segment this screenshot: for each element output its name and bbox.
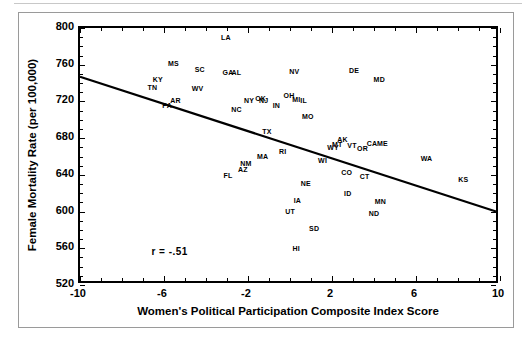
x-tick-minor [122,278,123,281]
x-axis-tick-labels: -10-6-22610 [78,287,498,303]
data-point-label: NJ [259,96,268,103]
regression-line [80,28,496,281]
y-tick-minor [80,166,83,167]
y-tick-minor [80,56,83,57]
y-tick-minor [80,83,83,84]
data-point-label: ME [377,139,388,146]
data-point-label: HI [293,245,300,252]
y-tick-major-right [491,65,496,66]
data-point-label: IL [300,96,307,103]
x-tick-minor-top [101,28,102,31]
x-tick-major [332,276,333,281]
y-tick-major [80,175,85,176]
data-point-label: ND [369,210,380,217]
y-tick-minor-right [493,166,496,167]
plot-inner: LAMSSCGAALNVDEKYTNMDWVARPANYOKNJOHMIILIN… [80,28,496,281]
y-tick-minor-right [493,74,496,75]
data-point-label: KS [458,176,468,183]
data-point-label: MS [168,59,179,66]
y-tick-minor [80,267,83,268]
x-tick-minor [290,278,291,281]
x-tick-label: -6 [157,287,167,299]
data-point-label: CA [367,139,378,146]
x-tick-label: 2 [327,287,333,299]
data-point-label: WA [421,155,433,162]
data-point-label: WV [192,84,204,91]
y-tick-major-right [491,138,496,139]
x-tick-minor-top [395,28,396,31]
y-tick-minor-right [493,92,496,93]
x-tick-minor-top [290,28,291,31]
x-tick-minor-top [269,28,270,31]
x-tick-minor-top [143,28,144,31]
y-tick-minor [80,92,83,93]
x-tick-minor-top [311,28,312,31]
y-tick-label: 560 [42,240,74,252]
x-tick-label: 6 [411,287,417,299]
data-point-label: AZ [238,166,248,173]
y-tick-minor [80,157,83,158]
x-tick-minor [269,278,270,281]
y-tick-major-right [491,28,496,29]
y-tick-minor [80,239,83,240]
data-point-label: TX [262,127,271,134]
data-point-label: TN [148,83,158,90]
y-tick-minor [80,129,83,130]
x-tick-minor [374,278,375,281]
x-tick-minor [458,278,459,281]
page-top-rule [14,3,522,4]
x-tick-minor [227,278,228,281]
y-tick-major [80,65,85,66]
x-tick-minor-top [227,28,228,31]
y-axis-title-label: Female Mortality Rate (per 100,000) [26,58,38,250]
y-tick-minor-right [493,221,496,222]
x-tick-label: 10 [492,287,504,299]
data-point-label: DE [349,67,359,74]
y-tick-major-right [491,212,496,213]
x-tick-minor-top [437,28,438,31]
y-tick-minor [80,120,83,121]
plot-area: LAMSSCGAALNVDEKYTNMDWVARPANYOKNJOHMIILIN… [78,26,498,283]
y-tick-minor-right [493,276,496,277]
x-tick-major-top [500,28,501,33]
y-tick-minor [80,221,83,222]
y-tick-major [80,212,85,213]
y-tick-major [80,101,85,102]
data-point-label: ID [344,190,351,197]
y-tick-minor-right [493,202,496,203]
x-tick-major [500,276,501,281]
figure-page: Female Mortality Rate (per 100,000) 5205… [0,0,529,346]
y-tick-minor [80,184,83,185]
data-point-label: FL [224,171,233,178]
x-tick-minor-top [353,28,354,31]
x-tick-major-top [248,28,249,33]
y-tick-minor-right [493,129,496,130]
x-tick-major [416,276,417,281]
y-tick-label: 640 [42,167,74,179]
y-tick-minor-right [493,184,496,185]
y-tick-major-right [491,101,496,102]
x-tick-minor [353,278,354,281]
data-point-label: SC [195,66,205,73]
y-axis-title: Female Mortality Rate (per 100,000) [22,26,42,283]
data-point-label: MO [302,113,314,120]
data-point-label: NC [231,105,242,112]
y-tick-minor-right [493,157,496,158]
data-point-label: MA [257,152,268,159]
x-tick-minor [479,278,480,281]
y-tick-minor-right [493,239,496,240]
y-tick-minor-right [493,37,496,38]
x-tick-minor [311,278,312,281]
y-tick-major-right [491,248,496,249]
data-point-label: WI [318,157,327,164]
y-tick-label: 800 [42,20,74,32]
y-tick-minor [80,193,83,194]
data-point-label: MD [374,76,385,83]
x-tick-minor [437,278,438,281]
y-tick-major-right [491,285,496,286]
y-tick-minor-right [493,111,496,112]
data-point-label: MN [375,197,386,204]
y-tick-minor-right [493,56,496,57]
data-point-label: SD [309,225,319,232]
y-tick-major [80,285,85,286]
